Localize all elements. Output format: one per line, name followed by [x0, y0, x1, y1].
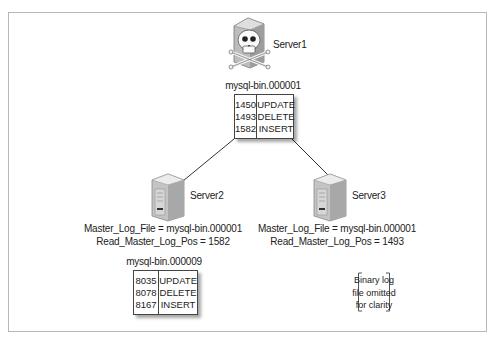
server-icon — [148, 172, 188, 222]
server1-binlog-filename: mysql-bin.000001 — [225, 80, 301, 91]
server3-read-master-log-pos: Read_Master_Log_Pos = 1493 — [270, 236, 404, 247]
server3-master-log-file: Master_Log_File = mysql-bin.000001 — [258, 223, 416, 234]
binlog-event: UPDATE — [257, 99, 295, 111]
server3-binlog-note-text: Binary log file omitted for clarity — [352, 274, 396, 312]
server1-node[interactable] — [226, 16, 272, 70]
binlog-pos: 8035 — [134, 275, 158, 287]
binlog-pos: 1493 — [235, 111, 256, 123]
binlog-pos: 1450 — [235, 99, 256, 111]
binlog-event: INSERT — [257, 123, 295, 135]
binlog-pos: 1582 — [235, 123, 256, 135]
server3-node[interactable] — [310, 172, 350, 222]
server1-label: Server1 — [273, 39, 307, 50]
note-line: file omitted — [352, 287, 396, 300]
binlog-pos: 8078 — [134, 287, 158, 299]
server2-binlog-filename: mysql-bin.000009 — [126, 256, 202, 267]
server2-node[interactable] — [148, 172, 188, 222]
binlog-event: DELETE — [159, 287, 197, 299]
server2-label: Server2 — [190, 190, 224, 201]
binlog-event: DELETE — [257, 111, 295, 123]
note-line: for clarity — [352, 299, 396, 312]
server1-binlog-table: 1450 1493 1582 UPDATE DELETE INSERT — [234, 94, 294, 139]
binlog-event: INSERT — [159, 299, 197, 311]
server-skull-icon — [226, 16, 272, 70]
note-line: Binary log — [352, 274, 396, 287]
binlog-pos: 8167 — [134, 299, 158, 311]
server2-master-log-file: Master_Log_File = mysql-bin.000001 — [84, 223, 242, 234]
server3-label: Server3 — [352, 190, 386, 201]
server2-binlog-table: 8035 8078 8167 UPDATE DELETE INSERT — [133, 270, 198, 315]
server2-read-master-log-pos: Read_Master_Log_Pos = 1582 — [96, 236, 230, 247]
binlog-event: UPDATE — [159, 275, 197, 287]
server-icon — [310, 172, 350, 222]
